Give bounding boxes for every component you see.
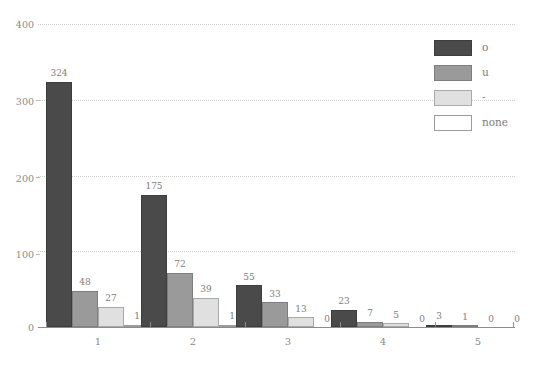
gridline-200 (38, 176, 515, 177)
legend-swatch-u-icon (434, 65, 472, 81)
bar-group3-series-o (236, 285, 262, 327)
x-axis-cap-g2g3 (245, 322, 246, 327)
bar-group3-series-u (262, 302, 288, 327)
gridline-400 (38, 24, 515, 25)
y-tick-label-200: 200 (0, 174, 34, 184)
x-tick-label-2: 2 (178, 337, 208, 347)
bar-group2-series-u (167, 273, 193, 328)
legend-item-none[interactable]: none (434, 113, 534, 135)
legend-label-o: o (482, 42, 488, 53)
bar-value-group1-u: 48 (70, 278, 100, 287)
bar-value-group3-o: 55 (234, 273, 264, 282)
bar-chart: 400 300 200 100 0 324 48 27 1 175 72 39 … (0, 0, 544, 365)
bar-value-group3-dash: 13 (286, 305, 316, 314)
bar-value-group1-dash: 27 (96, 294, 126, 303)
y-tick-label-100: 100 (0, 250, 34, 260)
legend-label-u: u (482, 67, 489, 78)
y-axis: 400 300 200 100 0 (0, 0, 34, 365)
legend-label-none: none (482, 117, 508, 128)
x-tick-label-3: 3 (273, 337, 303, 347)
bar-value-group2-dash: 39 (191, 285, 221, 294)
bar-group3-series-dash (288, 317, 314, 327)
bar-value-group2-u: 72 (165, 260, 195, 269)
bar-value-group2-o: 175 (139, 182, 169, 191)
legend-label-dash: - (482, 92, 486, 103)
x-axis-cap-g3g4 (340, 322, 341, 327)
y-tick-label-300: 300 (0, 97, 34, 107)
bar-group1-series-o (46, 82, 72, 327)
bar-value-group4-o: 23 (329, 297, 359, 306)
x-axis-line (38, 327, 515, 328)
bar-value-group5-none: 0 (502, 315, 532, 324)
x-axis-cap-g4g5 (435, 322, 436, 327)
bar-group1-series-dash (98, 307, 124, 328)
bar-value-group3-u: 33 (260, 290, 290, 299)
bar-group4-series-o (331, 310, 357, 327)
bar-group2-series-o (141, 195, 167, 328)
legend-swatch-o-icon (434, 40, 472, 56)
y-tick-label-0: 0 (0, 323, 34, 333)
x-axis-cap-g1g2 (150, 322, 151, 327)
legend: o u - none (434, 38, 534, 138)
legend-item-u[interactable]: u (434, 63, 534, 85)
legend-item-o[interactable]: o (434, 38, 534, 60)
legend-swatch-dash-icon (434, 90, 472, 106)
x-tick-label-5: 5 (463, 337, 493, 347)
bar-group1-series-u (72, 291, 98, 327)
legend-item-dash[interactable]: - (434, 88, 534, 110)
x-axis-cap-right (513, 322, 514, 327)
gridline-100 (38, 251, 515, 252)
x-tick-label-1: 1 (83, 337, 113, 347)
x-axis-cap-left (46, 322, 47, 327)
legend-swatch-none-icon (434, 115, 472, 131)
y-tick-label-400: 400 (0, 20, 34, 30)
bar-value-group1-o: 324 (44, 69, 74, 78)
bar-group2-series-dash (193, 298, 219, 328)
x-tick-label-4: 4 (368, 337, 398, 347)
